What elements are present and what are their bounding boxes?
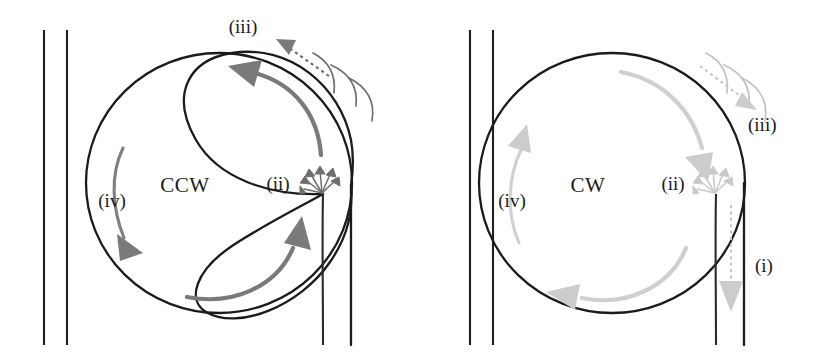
panel-left: (iii) (ii) (iv) CCW [44, 16, 373, 345]
label-rotation-ccw: CCW [160, 173, 209, 197]
flow-arrowhead-bottom-icon [284, 216, 311, 250]
ejection-arrowhead-iii-icon [276, 39, 296, 55]
label-i-right: (i) [755, 255, 773, 277]
bubble-circle-right [479, 53, 745, 313]
flow-arrowhead-iv-icon [117, 234, 143, 261]
bubble-circle [86, 53, 352, 313]
flow-arrowhead-top-icon [228, 60, 262, 87]
label-iv-left: (iv) [98, 190, 125, 212]
label-rotation-cw: CW [571, 173, 606, 197]
diagram-canvas: (iii) (ii) (iv) CCW [0, 0, 814, 359]
downflow-arrowhead-i-icon [719, 281, 743, 312]
figure-root: (iii) (ii) (iv) CCW [0, 0, 814, 359]
flow-arc-top-right [621, 72, 702, 148]
flow-arrowhead-bottom-icon-right [546, 284, 580, 310]
whisker-1-icon-right [706, 53, 727, 93]
ejection-dotted-line-iii-right [700, 66, 744, 99]
flow-arc-bottom-right [582, 248, 686, 300]
burst-icon-ii [300, 166, 340, 194]
label-iv-right: (iv) [498, 190, 525, 212]
panel-right: (iii) (ii) (iv) (i) CW [470, 30, 777, 345]
label-ii-right: (ii) [661, 173, 684, 195]
flow-arc-top [255, 73, 321, 155]
ejection-arrowhead-iii-icon-right [735, 92, 757, 110]
label-ii-left: (ii) [266, 173, 289, 195]
label-iii-left: (iii) [229, 16, 258, 38]
flow-arrowhead-iv-icon-right [508, 124, 531, 153]
label-iii-right: (iii) [748, 114, 777, 136]
